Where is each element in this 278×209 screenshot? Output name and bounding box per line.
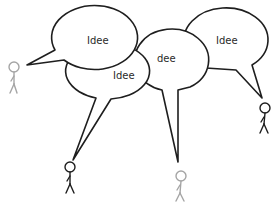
- stick-figure-1: [9, 62, 19, 93]
- bubble-3-label: dee: [157, 53, 176, 64]
- speech-bubble-diagram: Idee dee Idee Idee: [0, 0, 278, 209]
- bubble-2-label: Idee: [113, 70, 135, 81]
- bubble-1-label: Idee: [87, 35, 109, 46]
- speech-bubble-1: Idee: [27, 6, 138, 70]
- stick-figure-2: [65, 162, 75, 193]
- stick-figure-4: [260, 103, 270, 133]
- speech-bubble-3: dee: [135, 29, 209, 162]
- stick-figure-3: [176, 171, 186, 201]
- bubble-4-label: Idee: [216, 35, 238, 46]
